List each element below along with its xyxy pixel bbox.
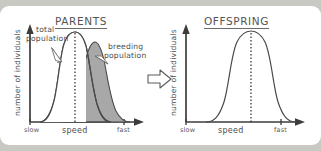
total-population-leader	[52, 48, 63, 63]
transition-arrow-icon	[148, 70, 171, 88]
callout-total-population-line2: population	[26, 35, 68, 44]
parents-x-axis-label: speed	[62, 127, 88, 135]
offspring-x-tick-fast: fast	[274, 127, 287, 134]
figure-card: PARENTS number of individuals slow speed…	[0, 6, 321, 145]
figure-root: PARENTS number of individuals slow speed…	[0, 0, 321, 151]
callout-breeding-population-line2: population	[104, 52, 146, 61]
panel-title-parents: PARENTS	[55, 16, 107, 29]
parents-x-tick-slow: slow	[24, 127, 39, 134]
offspring-x-axis-label: speed	[218, 127, 244, 135]
parents-y-axis-label: number of individuals	[14, 29, 22, 116]
offspring-y-axis-label: number of individuals	[170, 29, 178, 116]
offspring-y-axis	[182, 24, 189, 122]
parents-x-tick-fast: fast	[117, 127, 130, 134]
panel-offspring	[182, 24, 305, 126]
panel-title-offspring: OFFSPRING	[204, 16, 269, 29]
offspring-x-tick-slow: slow	[180, 127, 195, 134]
